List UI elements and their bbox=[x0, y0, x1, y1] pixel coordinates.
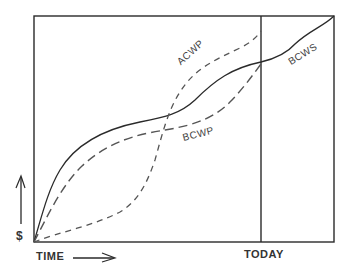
earned-value-chart bbox=[0, 0, 353, 279]
y-axis-label: $ bbox=[16, 229, 23, 243]
bcwp-curve bbox=[34, 64, 261, 242]
acwp-curve bbox=[34, 31, 261, 242]
today-label: TODAY bbox=[244, 248, 284, 260]
x-axis-label: TIME bbox=[36, 250, 64, 262]
